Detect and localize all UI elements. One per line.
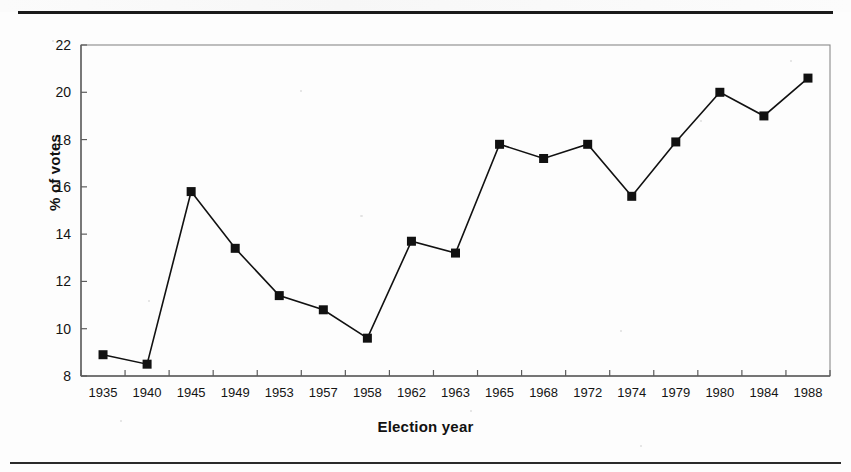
scan-speck [640,445,642,447]
data-point-marker [539,154,548,163]
figure-page: % of votes Election year 222018161412108… [0,0,851,472]
data-point-marker [99,350,108,359]
x-axis-ticks [81,370,830,376]
y-axis-ticks [81,45,87,376]
data-point-marker [143,360,152,369]
scan-speck [120,420,122,422]
data-point-marker [231,244,240,253]
scan-speck [470,410,472,412]
data-point-marker [759,111,768,120]
data-point-marker [627,192,636,201]
scan-speck [52,40,54,42]
scan-speck [700,120,702,122]
data-point-marker [583,140,592,149]
data-point-marker [671,137,680,146]
scan-speck [300,90,302,92]
data-point-marker [715,88,724,97]
data-point-markers [99,74,813,369]
scan-speck [790,60,792,62]
scan-speck [620,330,622,332]
data-point-marker [187,187,196,196]
plot-canvas [0,14,851,462]
data-point-marker [275,291,284,300]
data-point-marker [407,237,416,246]
data-point-marker [495,140,504,149]
data-series-line [103,78,808,364]
scan-speck [360,215,363,217]
data-point-marker [451,249,460,258]
data-point-marker [803,74,812,83]
horizontal-rule-bottom [10,462,841,464]
scan-speck [148,300,150,302]
data-point-marker [363,334,372,343]
line-chart: % of votes Election year 222018161412108… [0,14,851,462]
data-point-marker [319,305,328,314]
